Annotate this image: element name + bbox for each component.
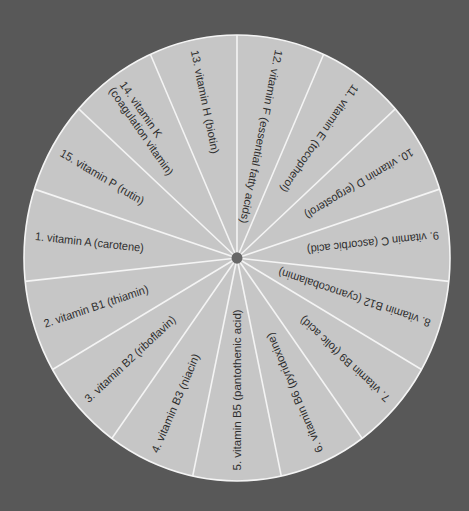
center-hub	[232, 252, 243, 264]
segment-5: 5. vitamin B5 (pantothenic acid)	[231, 309, 243, 470]
wheel-canvas: 1. vitamin A (carotene)2. vitamin B1 (th…	[0, 0, 469, 511]
wheel: 1. vitamin A (carotene)2. vitamin B1 (th…	[24, 35, 450, 481]
segment-label: 5. vitamin B5 (pantothenic acid)	[231, 309, 243, 470]
vitamin-wheel-diagram: 1. vitamin A (carotene)2. vitamin B1 (th…	[0, 0, 469, 511]
